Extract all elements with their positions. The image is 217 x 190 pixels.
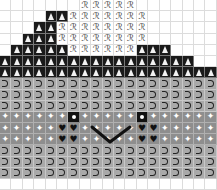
horseshoe-symbol-cell[interactable] <box>205 168 216 179</box>
triangle-symbol-cell[interactable] <box>57 56 68 67</box>
ribbon-symbol-cell[interactable]: ℛ <box>103 45 114 56</box>
heart-symbol-cell[interactable] <box>57 123 68 134</box>
ribbon-symbol-cell[interactable]: ℛ <box>125 11 136 22</box>
horseshoe-symbol-cell[interactable] <box>160 90 171 101</box>
horseshoe-symbol-cell[interactable] <box>34 168 45 179</box>
empty-cell[interactable] <box>125 179 136 190</box>
ribbon-symbol-cell[interactable]: ℛ <box>68 34 79 45</box>
horseshoe-symbol-cell[interactable] <box>80 78 91 89</box>
empty-cell[interactable] <box>0 34 11 45</box>
heart-symbol-cell[interactable] <box>57 134 68 145</box>
horseshoe-symbol-cell[interactable] <box>148 78 159 89</box>
empty-cell[interactable] <box>205 56 216 67</box>
horseshoe-symbol-cell[interactable] <box>183 145 194 156</box>
ribbon-symbol-cell[interactable]: ℛ <box>125 34 136 45</box>
empty-cell[interactable] <box>160 34 171 45</box>
horseshoe-symbol-cell[interactable] <box>114 78 125 89</box>
empty-cell[interactable] <box>205 179 216 190</box>
empty-cell[interactable] <box>57 179 68 190</box>
triangle-symbol-cell[interactable] <box>114 67 125 78</box>
sparkle-symbol-cell[interactable] <box>91 134 102 145</box>
triangle-symbol-cell[interactable] <box>114 56 125 67</box>
horseshoe-symbol-cell[interactable] <box>0 101 11 112</box>
empty-cell[interactable] <box>183 11 194 22</box>
sparkle-symbol-cell[interactable] <box>125 112 136 123</box>
sparkle-symbol-cell[interactable] <box>183 123 194 134</box>
horseshoe-symbol-cell[interactable] <box>68 101 79 112</box>
heart-symbol-cell[interactable] <box>137 123 148 134</box>
ribbon-symbol-cell[interactable]: ℛ <box>103 11 114 22</box>
triangle-symbol-cell[interactable] <box>57 45 68 56</box>
empty-cell[interactable] <box>171 22 182 33</box>
triangle-symbol-cell[interactable] <box>183 67 194 78</box>
horseshoe-symbol-cell[interactable] <box>160 78 171 89</box>
ribbon-symbol-cell[interactable]: ℛ <box>68 11 79 22</box>
triangle-symbol-cell[interactable] <box>80 67 91 78</box>
horseshoe-symbol-cell[interactable] <box>80 90 91 101</box>
horseshoe-symbol-cell[interactable] <box>171 90 182 101</box>
triangle-symbol-cell[interactable] <box>34 67 45 78</box>
horseshoe-symbol-cell[interactable] <box>137 157 148 168</box>
horseshoe-symbol-cell[interactable] <box>205 101 216 112</box>
horseshoe-symbol-cell[interactable] <box>46 78 57 89</box>
horseshoe-symbol-cell[interactable] <box>91 78 102 89</box>
empty-cell[interactable] <box>11 179 22 190</box>
triangle-symbol-cell[interactable] <box>91 67 102 78</box>
empty-cell[interactable] <box>57 0 68 11</box>
horseshoe-symbol-cell[interactable] <box>194 145 205 156</box>
empty-cell[interactable] <box>11 11 22 22</box>
sparkle-symbol-cell[interactable] <box>160 123 171 134</box>
sparkle-symbol-cell[interactable] <box>205 134 216 145</box>
sparkle-symbol-cell[interactable] <box>194 123 205 134</box>
horseshoe-symbol-cell[interactable] <box>103 145 114 156</box>
sparkle-symbol-cell[interactable] <box>34 123 45 134</box>
ribbon-symbol-cell[interactable]: ℛ <box>91 11 102 22</box>
horseshoe-symbol-cell[interactable] <box>11 101 22 112</box>
horseshoe-symbol-cell[interactable] <box>103 157 114 168</box>
ribbon-symbol-cell[interactable]: ℛ <box>68 45 79 56</box>
horseshoe-symbol-cell[interactable] <box>91 145 102 156</box>
sparkle-symbol-cell[interactable] <box>183 112 194 123</box>
sparkle-symbol-cell[interactable] <box>11 123 22 134</box>
horseshoe-symbol-cell[interactable] <box>183 101 194 112</box>
horseshoe-symbol-cell[interactable] <box>148 90 159 101</box>
empty-cell[interactable] <box>80 179 91 190</box>
sparkle-symbol-cell[interactable] <box>46 112 57 123</box>
horseshoe-symbol-cell[interactable] <box>194 157 205 168</box>
empty-cell[interactable] <box>160 22 171 33</box>
horseshoe-symbol-cell[interactable] <box>0 168 11 179</box>
ribbon-symbol-cell[interactable]: ℛ <box>125 45 136 56</box>
sparkle-symbol-cell[interactable] <box>11 134 22 145</box>
ribbon-symbol-cell[interactable]: ℛ <box>114 45 125 56</box>
empty-cell[interactable] <box>160 0 171 11</box>
empty-cell[interactable] <box>68 0 79 11</box>
sparkle-symbol-cell[interactable] <box>171 134 182 145</box>
empty-cell[interactable] <box>160 179 171 190</box>
horseshoe-symbol-cell[interactable] <box>46 168 57 179</box>
horseshoe-symbol-cell[interactable] <box>103 101 114 112</box>
sparkle-symbol-cell[interactable] <box>0 112 11 123</box>
horseshoe-symbol-cell[interactable] <box>148 101 159 112</box>
triangle-symbol-cell[interactable] <box>0 56 11 67</box>
triangle-symbol-cell[interactable] <box>148 56 159 67</box>
horseshoe-symbol-cell[interactable] <box>11 78 22 89</box>
horseshoe-symbol-cell[interactable] <box>34 90 45 101</box>
empty-cell[interactable] <box>23 11 34 22</box>
horseshoe-symbol-cell[interactable] <box>46 90 57 101</box>
sparkle-symbol-cell[interactable] <box>34 134 45 145</box>
horseshoe-symbol-cell[interactable] <box>34 157 45 168</box>
horseshoe-symbol-cell[interactable] <box>194 168 205 179</box>
horseshoe-symbol-cell[interactable] <box>34 145 45 156</box>
empty-cell[interactable] <box>205 34 216 45</box>
horseshoe-symbol-cell[interactable] <box>0 90 11 101</box>
horseshoe-symbol-cell[interactable] <box>125 90 136 101</box>
sparkle-symbol-cell[interactable] <box>103 134 114 145</box>
triangle-symbol-cell[interactable] <box>171 56 182 67</box>
empty-cell[interactable] <box>46 179 57 190</box>
empty-cell[interactable] <box>194 179 205 190</box>
horseshoe-symbol-cell[interactable] <box>114 157 125 168</box>
triangle-symbol-cell[interactable] <box>34 56 45 67</box>
empty-cell[interactable] <box>171 45 182 56</box>
sparkle-symbol-cell[interactable] <box>160 134 171 145</box>
sparkle-symbol-cell[interactable] <box>80 123 91 134</box>
